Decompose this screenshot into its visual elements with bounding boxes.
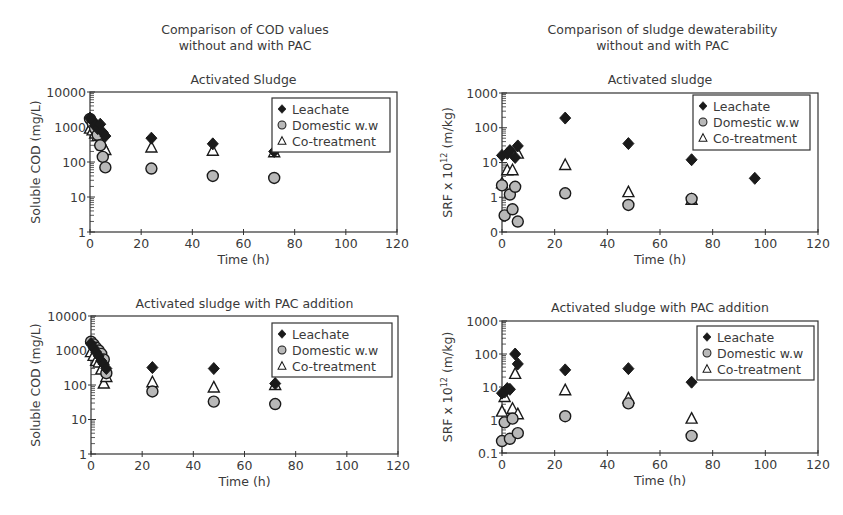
y-tick-label: 10	[482, 155, 498, 170]
data-point	[686, 193, 697, 204]
x-tick-label: 60	[652, 236, 668, 251]
data-point	[623, 138, 634, 150]
circle-legend-icon	[703, 349, 711, 357]
legend: LeachateDomestic w.wCo-treatment	[697, 326, 814, 380]
y-tick-label: 100	[474, 120, 498, 135]
y-axis-label: SRF x 1012 (m/kg)	[440, 107, 455, 218]
x-axis-label: Time (h)	[216, 252, 269, 267]
x-tick-label: 100	[753, 236, 777, 251]
chart-srf-pac: 0.11101001000020406080100120Time (h)SRF …	[440, 314, 830, 489]
data-point	[686, 430, 697, 441]
data-point	[686, 376, 697, 388]
data-point	[269, 172, 280, 183]
legend: LeachateDomestic w.wCo-treatment	[272, 98, 390, 152]
legend: LeachateDomestic w.wCo-treatment	[693, 95, 810, 150]
y-axis-label: Soluble COD (mg/L)	[28, 100, 43, 223]
legend-label-leachate: Leachate	[292, 327, 349, 342]
x-tick-label: 40	[185, 458, 201, 473]
series-diamond	[497, 348, 698, 399]
data-point	[507, 413, 518, 424]
x-tick-label: 40	[184, 236, 200, 251]
y-tick-label: 0.1	[478, 446, 498, 461]
data-point	[512, 428, 523, 439]
y-tick-label: 10	[482, 380, 498, 395]
y-tick-label: 1	[79, 447, 87, 462]
series-triangle	[497, 368, 698, 423]
y-tick-label: 10000	[46, 85, 86, 100]
data-point	[147, 376, 158, 387]
circle-marker-icon	[278, 346, 286, 354]
y-tick-label: 100	[474, 347, 498, 362]
x-tick-label: 80	[705, 457, 721, 472]
data-point	[623, 199, 634, 210]
data-point	[507, 204, 518, 215]
x-tick-label: 80	[288, 458, 304, 473]
legend-label-cotreatment: Co-treatment	[292, 134, 376, 149]
x-tick-label: 120	[385, 236, 409, 251]
legend-label-domestic: Domestic w.w	[717, 346, 803, 361]
y-tick-label: 1000	[466, 314, 498, 329]
circle-marker-icon	[278, 121, 286, 129]
x-tick-label: 0	[498, 457, 506, 472]
series-diamond	[85, 112, 280, 157]
x-tick-label: 60	[236, 236, 252, 251]
data-point	[560, 384, 571, 395]
data-point	[146, 132, 157, 144]
series-circle	[86, 336, 281, 409]
legend: LeachateDomestic w.wCo-treatment	[272, 323, 392, 377]
legend-label-domestic: Domestic w.w	[292, 118, 378, 133]
x-tick-label: 120	[806, 457, 830, 472]
data-point	[147, 386, 158, 397]
circle-legend-icon	[699, 118, 707, 126]
x-axis-label: Time (h)	[633, 473, 686, 488]
data-point	[560, 411, 571, 422]
series-triangle	[497, 148, 698, 205]
data-point	[95, 140, 106, 151]
x-tick-label: 60	[652, 457, 668, 472]
legend-label-leachate: Leachate	[717, 330, 774, 345]
circle-marker-icon	[699, 118, 707, 126]
legend-label-domestic: Domestic w.w	[713, 115, 799, 130]
circle-marker-icon	[703, 349, 711, 357]
chart-srf-as: 01101001000020406080100120Time (h)SRF x …	[440, 86, 830, 268]
x-tick-label: 40	[599, 457, 615, 472]
data-point	[686, 154, 697, 166]
y-tick-label: 1	[78, 225, 86, 240]
data-point	[147, 362, 158, 374]
series-triangle	[86, 346, 281, 392]
data-point	[207, 138, 218, 150]
data-point	[623, 363, 634, 375]
data-point	[97, 151, 108, 162]
y-tick-label: 1000	[55, 343, 87, 358]
data-point	[623, 186, 634, 197]
circle-legend-icon	[278, 346, 286, 354]
x-axis-label: Time (h)	[217, 474, 270, 489]
x-axis-label: Time (h)	[633, 252, 686, 267]
series-circle	[85, 113, 280, 183]
y-tick-label: 100	[62, 155, 86, 170]
x-tick-label: 20	[134, 458, 150, 473]
y-axis-label: SRF x 1012 (m/kg)	[440, 332, 455, 443]
data-point	[208, 381, 219, 392]
x-tick-label: 0	[87, 458, 95, 473]
data-point	[208, 363, 219, 375]
chart-cod-pac: 110100100010000020406080100120Time (h)So…	[28, 309, 410, 490]
x-tick-label: 20	[547, 457, 563, 472]
legend-label-cotreatment: Co-treatment	[717, 362, 801, 377]
x-tick-label: 0	[498, 236, 506, 251]
data-point	[686, 413, 697, 424]
x-tick-label: 120	[386, 458, 410, 473]
x-tick-label: 100	[753, 457, 777, 472]
x-tick-label: 20	[133, 236, 149, 251]
series-diamond	[86, 337, 281, 389]
data-point	[510, 368, 521, 379]
y-tick-label: 10000	[47, 309, 87, 324]
data-point	[560, 159, 571, 170]
data-point	[497, 180, 508, 191]
charts-canvas: 110100100010000020406080100120Time (h)So…	[0, 0, 843, 515]
legend-label-cotreatment: Co-treatment	[713, 131, 797, 146]
x-tick-label: 40	[599, 236, 615, 251]
data-point	[560, 364, 571, 376]
y-tick-label: 1000	[54, 120, 86, 135]
data-point	[560, 112, 571, 124]
